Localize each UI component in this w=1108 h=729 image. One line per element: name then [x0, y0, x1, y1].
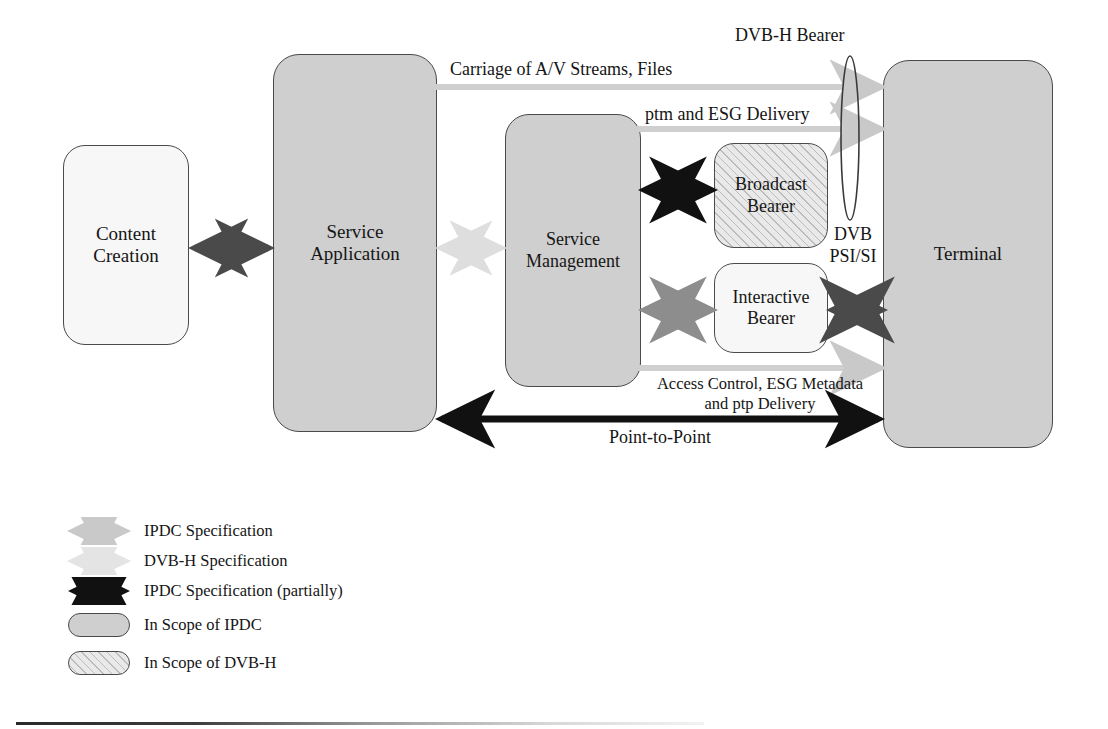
diagram-canvas: Content Creation Service Application Ser…	[0, 0, 1108, 729]
node-broadcast-bearer-line1: Broadcast	[735, 174, 807, 194]
label-access-control-line2: and ptp Delivery	[632, 394, 888, 413]
legend: IPDC Specification DVB-H Specificati	[62, 516, 492, 682]
node-terminal-label: Terminal	[934, 243, 1002, 264]
label-ptm-esg-delivery: ptm and ESG Delivery	[645, 104, 809, 125]
dvbh-bearer-ellipse	[841, 56, 859, 220]
node-broadcast-bearer-line2: Bearer	[747, 196, 795, 216]
node-interactive-bearer-line1: Interactive	[733, 287, 810, 307]
node-service-management-line1: Service	[546, 229, 600, 249]
legend-item-ipdc-specification-partially: IPDC Specification (partially)	[62, 576, 492, 606]
node-service-application[interactable]: Service Application	[273, 54, 437, 432]
legend-item-in-scope-of-dvbh: In Scope of DVB-H	[62, 644, 492, 682]
legend-label-ipdc-specification: IPDC Specification	[140, 521, 273, 541]
arrow-light-gray-icon	[62, 517, 140, 545]
node-content-creation-line2: Creation	[93, 245, 158, 266]
legend-item-ipdc-specification: IPDC Specification	[62, 516, 492, 546]
node-service-application-line2: Application	[310, 243, 400, 264]
node-content-creation[interactable]: Content Creation	[63, 145, 189, 345]
node-interactive-bearer-line2: Bearer	[747, 308, 795, 328]
node-content-creation-line1: Content	[96, 223, 156, 244]
label-point-to-point: Point-to-Point	[560, 427, 760, 448]
label-carriage-av-streams: Carriage of A/V Streams, Files	[450, 59, 672, 80]
legend-label-in-scope-of-ipdc: In Scope of IPDC	[140, 615, 262, 635]
node-broadcast-bearer[interactable]: Broadcast Bearer	[714, 143, 828, 248]
node-service-management-line2: Management	[526, 251, 620, 271]
legend-item-dvbh-specification: DVB-H Specification	[62, 546, 492, 576]
label-dvb-psi-si-line2: PSI/SI	[820, 246, 886, 267]
legend-label-ipdc-specification-partially: IPDC Specification (partially)	[140, 581, 343, 601]
label-dvb-psi-si-line1: DVB	[826, 224, 880, 245]
label-dvbh-bearer: DVB-H Bearer	[735, 25, 844, 46]
footer-rule	[16, 722, 704, 725]
legend-item-in-scope-of-ipdc: In Scope of IPDC	[62, 606, 492, 644]
pill-hatched-icon	[62, 649, 140, 677]
legend-label-in-scope-of-dvbh: In Scope of DVB-H	[140, 653, 276, 673]
pill-gray-filled-icon	[62, 611, 140, 639]
legend-label-dvbh-specification: DVB-H Specification	[140, 551, 287, 571]
node-service-application-line1: Service	[327, 221, 384, 242]
node-service-management[interactable]: Service Management	[505, 114, 641, 387]
node-interactive-bearer[interactable]: Interactive Bearer	[714, 263, 828, 353]
arrow-black-icon	[62, 577, 140, 605]
label-access-control-line1: Access Control, ESG Metadata	[632, 374, 888, 393]
node-terminal[interactable]: Terminal	[883, 60, 1053, 448]
arrow-pale-gray-icon	[62, 547, 140, 575]
